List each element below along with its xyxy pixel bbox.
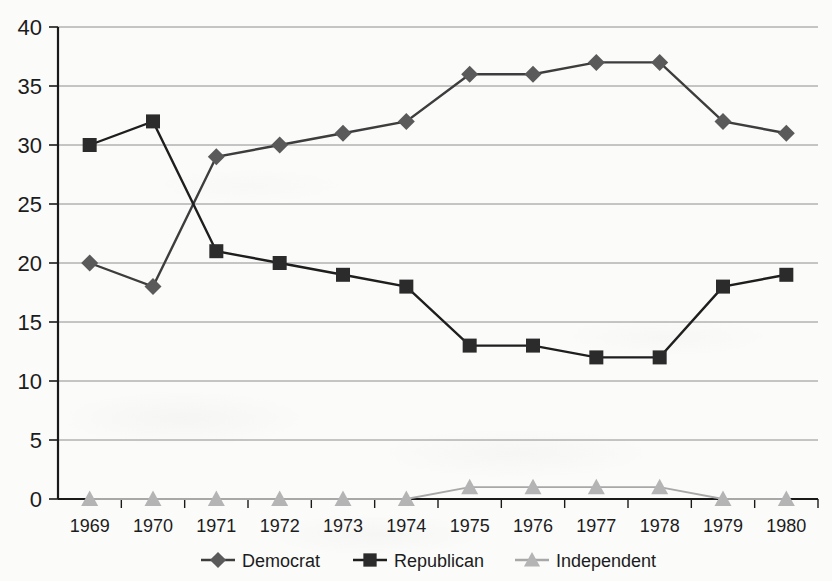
x-tick-label: 1971: [196, 516, 236, 536]
data-point-democrat: [145, 278, 162, 295]
series-republican: [83, 114, 794, 364]
y-tick-label: 25: [18, 192, 42, 217]
data-point-democrat: [588, 54, 605, 71]
data-point-democrat: [778, 125, 795, 142]
line-chart: 0510152025303540 19691970197119721973197…: [0, 0, 832, 581]
series-democrat: [81, 54, 795, 295]
data-point-republican: [336, 268, 350, 282]
x-axis: [58, 499, 818, 508]
x-tick-label: 1976: [513, 516, 553, 536]
square-icon: [363, 553, 376, 566]
y-tick-label: 20: [18, 251, 42, 276]
data-point-democrat: [398, 113, 415, 130]
y-axis: [49, 27, 58, 499]
y-tick-labels: 0510152025303540: [18, 15, 42, 512]
data-series: [81, 54, 795, 506]
data-point-democrat: [271, 137, 288, 154]
legend-item-republican[interactable]: Republican: [353, 551, 484, 571]
x-tick-label: 1980: [766, 516, 806, 536]
legend-item-democrat[interactable]: Democrat: [201, 551, 320, 571]
data-point-republican: [273, 256, 287, 270]
chart-legend: DemocratRepublicanIndependent: [201, 551, 656, 571]
data-point-republican: [209, 244, 223, 258]
y-tick-label: 0: [30, 487, 42, 512]
legend-item-independent[interactable]: Independent: [515, 551, 656, 571]
data-point-republican: [779, 268, 793, 282]
legend-label: Republican: [394, 551, 484, 571]
x-tick-labels: 1969197019711972197319741975197619771978…: [70, 516, 807, 536]
data-point-democrat: [208, 148, 225, 165]
gridlines: [58, 27, 818, 440]
data-point-republican: [399, 280, 413, 294]
chart-page: 0510152025303540 19691970197119721973197…: [0, 0, 832, 581]
x-tick-label: 1978: [640, 516, 680, 536]
x-tick-label: 1970: [133, 516, 173, 536]
data-point-republican: [589, 350, 603, 364]
x-tick-label: 1969: [70, 516, 110, 536]
data-point-democrat: [81, 255, 98, 272]
data-point-republican: [526, 339, 540, 353]
diamond-icon: [210, 552, 226, 568]
x-tick-label: 1979: [703, 516, 743, 536]
x-tick-label: 1977: [576, 516, 616, 536]
data-point-republican: [83, 138, 97, 152]
data-point-republican: [716, 280, 730, 294]
legend-label: Democrat: [242, 551, 320, 571]
y-tick-label: 40: [18, 15, 42, 40]
y-tick-label: 5: [30, 428, 42, 453]
data-point-democrat: [335, 125, 352, 142]
x-tick-label: 1973: [323, 516, 363, 536]
y-tick-label: 15: [18, 310, 42, 335]
legend-label: Independent: [556, 551, 656, 571]
data-point-republican: [146, 114, 160, 128]
x-tick-label: 1972: [260, 516, 300, 536]
data-point-democrat: [525, 66, 542, 83]
y-tick-label: 35: [18, 74, 42, 99]
data-point-democrat: [461, 66, 478, 83]
data-point-republican: [463, 339, 477, 353]
y-tick-label: 10: [18, 369, 42, 394]
x-tick-label: 1974: [386, 516, 426, 536]
y-tick-label: 30: [18, 133, 42, 158]
x-tick-label: 1975: [450, 516, 490, 536]
data-point-republican: [653, 350, 667, 364]
